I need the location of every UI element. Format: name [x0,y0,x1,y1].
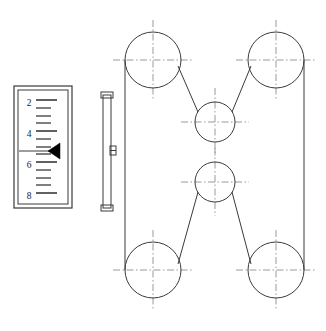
scale-label-6: 6 [27,160,32,170]
drawing-svg: 2468 [0,0,326,331]
scale-label-2: 2 [27,98,32,108]
belt-segment-upper-right-diag [232,66,251,112]
belt-segment-upper-left-diag [178,66,198,112]
technical-drawing-canvas: 2468 [0,0,326,331]
belt-segment-lower-left-diag [178,192,198,264]
belt-segment-lower-right-diag [232,192,251,264]
scale-label-4: 4 [27,129,32,139]
scale-label-8: 8 [27,191,32,201]
scale-pointer-triangle [48,143,60,159]
